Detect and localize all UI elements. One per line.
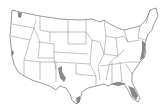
map-outline bbox=[10, 8, 158, 104]
us-map bbox=[0, 0, 167, 107]
